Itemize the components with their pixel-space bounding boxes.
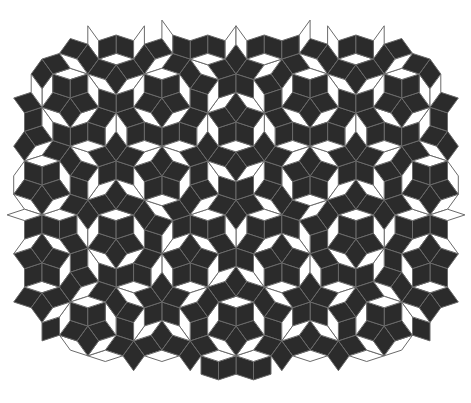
penrose-tiling-figure bbox=[0, 0, 471, 403]
tiling-canvas bbox=[0, 0, 471, 403]
